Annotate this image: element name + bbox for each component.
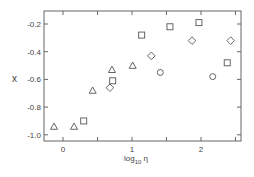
x-axis-label: log10η [124, 154, 148, 165]
y-tick-label: -0.8 [27, 103, 41, 112]
y-tick-label: -0.4 [27, 48, 41, 57]
y-tick-label: -1.0 [27, 131, 41, 140]
y-axis: -0.2-0.4-0.6-0.8-1.0 [27, 20, 241, 140]
circle-marker [157, 69, 163, 75]
square-marker [81, 118, 87, 124]
x-tick-label: 2 [199, 145, 204, 154]
triangle-marker [108, 66, 115, 72]
x-tick-label: 0 [61, 145, 66, 154]
x-axis: 012 [61, 11, 236, 154]
square-marker [196, 20, 202, 26]
square-marker [110, 78, 116, 84]
diamond-marker [188, 37, 196, 45]
plot-frame [44, 11, 241, 141]
square-marker [167, 24, 173, 30]
triangle-marker [51, 123, 58, 129]
square-marker [224, 60, 230, 66]
square-marker [139, 32, 145, 38]
diamond-marker [148, 52, 156, 60]
diamond-marker [227, 37, 235, 45]
y-tick-label: -0.2 [27, 20, 41, 29]
circle-marker [210, 74, 216, 80]
diamond-marker [106, 84, 114, 92]
data-points [51, 20, 235, 130]
x-tick-label: 1 [130, 145, 135, 154]
y-tick-label: -0.6 [27, 75, 41, 84]
triangle-marker [89, 87, 96, 93]
scatter-chart: -0.2-0.4-0.6-0.8-1.0 012 x log10η [0, 0, 254, 177]
y-axis-label: x [12, 73, 17, 84]
triangle-marker [71, 123, 78, 129]
triangle-marker [129, 62, 136, 68]
